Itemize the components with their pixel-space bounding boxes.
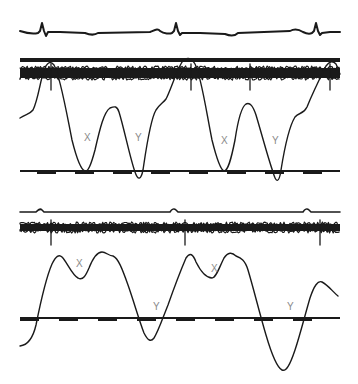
lower-label-y1: Y <box>153 301 160 312</box>
lower-label-y2: Y <box>287 301 294 312</box>
waveform-figure: X Y X Y X Y X Y <box>0 0 358 384</box>
upper-baseline-marker <box>265 171 284 174</box>
lower-baseline-marker <box>254 318 273 321</box>
upper-reference-bar <box>20 58 340 62</box>
lower-panel: X Y X Y <box>20 209 340 370</box>
lower-baseline-marker <box>215 318 234 321</box>
upper-label-x1: X <box>84 132 91 143</box>
upper-label-y2: Y <box>272 135 279 146</box>
upper-ecg-trace <box>20 23 340 36</box>
upper-baseline-marker <box>151 171 170 174</box>
lower-baseline-marker <box>20 318 39 321</box>
lower-phono-trace <box>20 220 340 245</box>
upper-phono-trace <box>20 64 340 90</box>
lower-baseline-marker <box>176 318 195 321</box>
upper-panel: X Y X Y <box>20 23 340 180</box>
upper-baseline-marker <box>75 171 94 174</box>
upper-baseline-marker <box>37 171 56 174</box>
upper-baseline-marker <box>227 171 246 174</box>
upper-label-y1: Y <box>135 132 142 143</box>
lower-baseline-marker <box>293 318 312 321</box>
lower-label-x2: X <box>211 263 218 274</box>
lower-baseline-marker <box>59 318 78 321</box>
upper-baseline-marker <box>113 171 132 174</box>
lower-ecg-trace <box>20 209 340 212</box>
upper-baseline-marker <box>303 171 322 174</box>
lower-baseline-marker <box>98 318 117 321</box>
lower-label-x1: X <box>76 258 83 269</box>
upper-label-x2: X <box>221 135 228 146</box>
upper-baseline-marker <box>189 171 208 174</box>
lower-baseline-marker <box>137 318 156 321</box>
